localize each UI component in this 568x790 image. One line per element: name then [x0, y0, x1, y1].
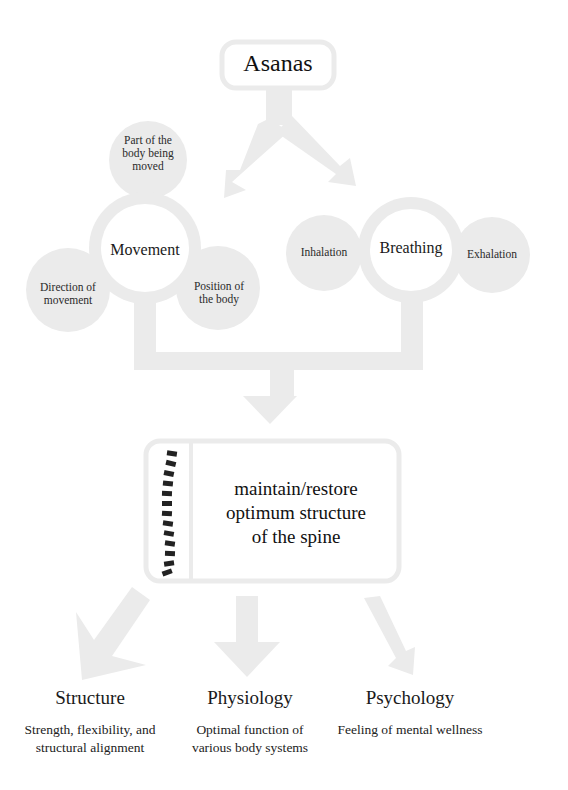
aspect-part-line: moved	[104, 160, 192, 173]
arrow-to-breathing	[276, 116, 356, 186]
aspect-part-label: Part of the body being moved	[104, 134, 192, 174]
outcome-desc-line: Optimal function of	[170, 721, 330, 739]
aspect-direction-line: movement	[22, 294, 114, 307]
outcome-structure-title: Structure	[20, 687, 160, 709]
asanas-label: Asanas	[222, 50, 334, 78]
aspect-direction-label: Direction of movement	[22, 281, 114, 307]
outcome-desc-line: Strength, flexibility, and	[10, 721, 170, 739]
aspect-exhalation-label: Exhalation	[454, 248, 530, 261]
merge-bar	[134, 352, 423, 370]
spine-goal-line: optimum structure	[195, 501, 397, 525]
down-arrow-head	[243, 396, 297, 424]
aspect-direction-line: Direction of	[22, 281, 114, 294]
arrow-to-physiology-stem	[236, 596, 258, 648]
aspect-position-label: Position of the body	[176, 280, 262, 306]
aspect-position-line: the body	[176, 293, 262, 306]
outcome-psychology-title: Psychology	[340, 687, 480, 709]
outcome-desc-line: Feeling of mental wellness	[330, 721, 490, 739]
outcome-psychology-desc: Feeling of mental wellness	[330, 721, 490, 739]
arrow-to-structure	[76, 587, 150, 680]
diagram-canvas	[0, 0, 568, 790]
down-arrow-stem	[270, 368, 294, 398]
outcome-desc-line: structural alignment	[10, 739, 170, 757]
spine-box-divider	[189, 442, 193, 580]
breathing-label: Breathing	[366, 239, 456, 257]
spine-goal-line: maintain/restore	[195, 477, 397, 501]
spine-goal-line: of the spine	[195, 525, 397, 549]
outcome-physiology-title: Physiology	[180, 687, 320, 709]
outcome-structure-desc: Strength, flexibility, and structural al…	[10, 721, 170, 756]
aspect-part-line: Part of the	[104, 134, 192, 147]
aspect-part-line: body being	[104, 147, 192, 160]
outcome-desc-line: various body systems	[170, 739, 330, 757]
outcome-physiology-desc: Optimal function of various body systems	[170, 721, 330, 756]
arrow-to-psychology	[364, 596, 415, 675]
aspect-position-line: Position of	[176, 280, 262, 293]
aspect-inhalation-label: Inhalation	[286, 246, 362, 259]
arrow-to-physiology-head	[214, 642, 280, 677]
spine-goal-label: maintain/restore optimum structure of th…	[195, 477, 397, 548]
movement-label: Movement	[100, 241, 190, 259]
